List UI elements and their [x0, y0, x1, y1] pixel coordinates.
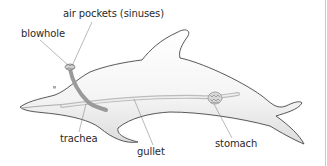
eye	[53, 86, 56, 89]
dolphin-illustration	[0, 0, 327, 166]
dolphin-diagram: air pockets (sinuses) blowhole trachea g…	[0, 0, 327, 166]
label-stomach: stomach	[215, 138, 257, 149]
label-blowhole: blowhole	[21, 28, 65, 39]
label-gullet: gullet	[137, 146, 165, 157]
label-air-pockets: air pockets (sinuses)	[63, 8, 164, 19]
air-pockets-sinuses	[65, 64, 75, 70]
leader-air-pockets	[72, 22, 92, 66]
stomach-organ	[208, 92, 222, 104]
dolphin-body	[20, 30, 304, 144]
label-trachea: trachea	[60, 133, 98, 144]
right-border-rule	[325, 0, 326, 166]
leader-blowhole	[40, 40, 68, 65]
